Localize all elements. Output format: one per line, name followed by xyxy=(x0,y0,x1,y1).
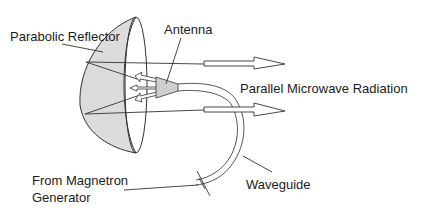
radiation-arrow-top xyxy=(204,57,285,69)
radiation-arrow-bottom xyxy=(204,103,285,116)
diagram-canvas: Parabolic Reflector Antenna Parallel Mic… xyxy=(0,0,422,218)
feed-arrows xyxy=(130,72,158,102)
magnetron-label-line2: Generator xyxy=(32,190,91,205)
waveguide-label: Waveguide xyxy=(246,177,311,192)
antenna-label: Antenna xyxy=(164,22,212,37)
magnetron-leader xyxy=(124,185,198,190)
magnetron-label-line1: From Magnetron xyxy=(32,173,128,188)
waveguide-break-mark-1 xyxy=(197,171,210,196)
waveguide-outer xyxy=(178,83,244,185)
antenna-leader xyxy=(166,38,181,84)
radiation-label: Parallel Microwave Radiation xyxy=(240,81,408,96)
waveguide-inner xyxy=(178,90,237,180)
parabolic-reflector-label: Parabolic Reflector xyxy=(10,29,120,44)
waveguide-leader xyxy=(243,156,272,172)
